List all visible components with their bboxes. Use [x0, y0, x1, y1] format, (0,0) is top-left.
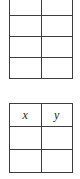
table-header-row: x y: [10, 104, 73, 127]
table-cell[interactable]: [41, 37, 73, 58]
table-cell[interactable]: [10, 58, 42, 79]
table-cell[interactable]: [41, 16, 73, 37]
table-cell[interactable]: [41, 58, 73, 79]
table-row: [10, 58, 73, 79]
table-cell[interactable]: [10, 150, 42, 173]
blank-grid: [9, 0, 73, 79]
table-row: [10, 37, 73, 58]
table-cell[interactable]: [41, 127, 73, 150]
table-cell[interactable]: [10, 0, 42, 16]
column-header-x: x: [10, 104, 42, 127]
table-cell[interactable]: [41, 0, 73, 16]
xy-grid: x y: [9, 103, 73, 173]
table-cell[interactable]: [10, 37, 42, 58]
column-header-y: y: [41, 104, 73, 127]
table-row: [10, 16, 73, 37]
table-cell[interactable]: [41, 150, 73, 173]
xy-table: x y: [9, 103, 73, 173]
blank-grid-table: [9, 0, 73, 78]
table-cell[interactable]: [10, 16, 42, 37]
table-cell[interactable]: [10, 127, 42, 150]
table-row: [10, 127, 73, 150]
table-row: [10, 0, 73, 16]
table-row: [10, 150, 73, 173]
